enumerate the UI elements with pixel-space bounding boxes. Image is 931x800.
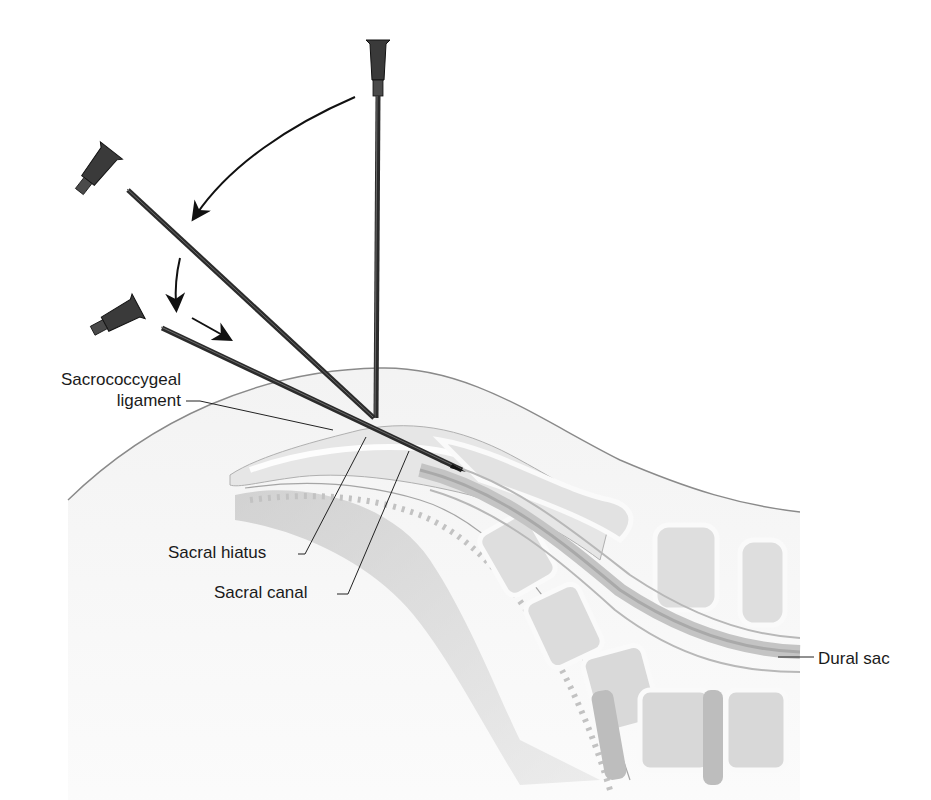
arc-arrow-icon: [196, 97, 355, 215]
motion-arrows: [176, 97, 355, 337]
label-sacrococcygeal-line1: Sacrococcygeal: [31, 369, 181, 390]
label-dural-sac: Dural sac: [818, 648, 890, 669]
label-sacrococcygeal-line2: ligament: [31, 390, 181, 411]
diagram-canvas: Sacrococcygeal ligament Sacral hiatus Sa…: [0, 0, 931, 800]
advance-arrow-icon: [192, 318, 226, 337]
label-sacral-canal: Sacral canal: [214, 582, 308, 603]
needle-vertical: [366, 40, 390, 418]
label-sacral-hiatus: Sacral hiatus: [168, 542, 266, 563]
label-sacrococcygeal-ligament: Sacrococcygeal ligament: [31, 369, 181, 411]
down-arrow-icon: [176, 258, 180, 305]
